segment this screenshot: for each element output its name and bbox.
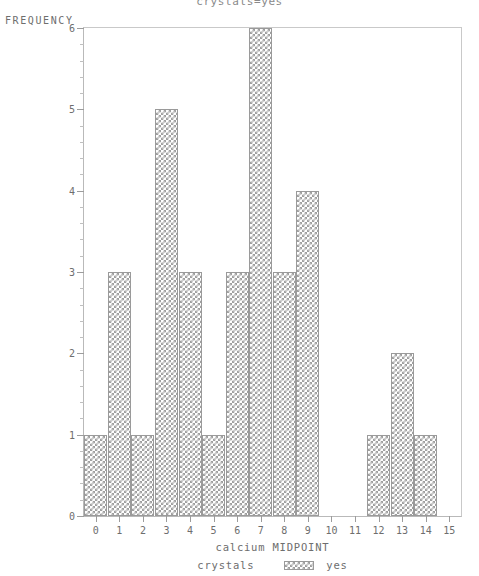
bar: [273, 272, 296, 516]
x-tick-label: 14: [420, 525, 432, 536]
y-tick: [77, 435, 84, 436]
y-tick: [77, 109, 84, 110]
x-tick: [237, 516, 238, 522]
x-tick-label: 10: [325, 525, 337, 536]
bar: [226, 272, 249, 516]
x-tick-label: 1: [116, 525, 122, 536]
x-tick-label: 11: [349, 525, 361, 536]
y-minor-tick: [80, 418, 84, 419]
y-minor-tick: [80, 158, 84, 159]
x-tick-label: 4: [187, 525, 193, 536]
plot-area: 0123456 0123456789101112131415: [83, 27, 462, 517]
x-tick-label: 15: [443, 525, 455, 536]
x-tick: [166, 516, 167, 522]
bar: [108, 272, 131, 516]
y-minor-tick: [80, 61, 84, 62]
y-minor-tick: [80, 256, 84, 257]
y-tick-label: 4: [69, 185, 75, 196]
x-tick: [143, 516, 144, 522]
x-tick: [308, 516, 309, 522]
y-minor-tick: [80, 402, 84, 403]
x-tick: [426, 516, 427, 522]
y-minor-tick: [80, 207, 84, 208]
bar: [391, 353, 414, 516]
y-minor-tick: [80, 223, 84, 224]
x-tick-label: 8: [281, 525, 287, 536]
bar: [84, 435, 107, 516]
x-tick: [331, 516, 332, 522]
bars-layer: [84, 28, 461, 516]
x-tick-label: 5: [211, 525, 217, 536]
bar: [296, 191, 319, 516]
x-tick-label: 9: [305, 525, 311, 536]
x-tick-label: 2: [140, 525, 146, 536]
y-tick-label: 0: [69, 511, 75, 522]
y-minor-tick: [80, 467, 84, 468]
bar: [131, 435, 154, 516]
bar: [179, 272, 202, 516]
y-tick-label: 1: [69, 429, 75, 440]
y-minor-tick: [80, 44, 84, 45]
y-minor-tick: [80, 239, 84, 240]
y-tick-label: 5: [69, 104, 75, 115]
chart-title: crystals=yes: [0, 0, 479, 8]
x-tick: [284, 516, 285, 522]
x-tick-label: 6: [234, 525, 240, 536]
x-tick-label: 12: [373, 525, 385, 536]
x-tick: [379, 516, 380, 522]
y-minor-tick: [80, 386, 84, 387]
x-tick: [214, 516, 215, 522]
y-minor-tick: [80, 305, 84, 306]
legend-swatch-yes: [284, 561, 314, 570]
x-tick-label: 7: [258, 525, 264, 536]
bar: [367, 435, 390, 516]
bar: [202, 435, 225, 516]
y-minor-tick: [80, 142, 84, 143]
y-minor-tick: [80, 370, 84, 371]
y-minor-tick: [80, 500, 84, 501]
y-minor-tick: [80, 337, 84, 338]
x-tick: [402, 516, 403, 522]
bar: [155, 109, 178, 516]
x-tick: [96, 516, 97, 522]
y-tick: [77, 272, 84, 273]
x-tick: [261, 516, 262, 522]
x-tick: [449, 516, 450, 522]
x-tick: [190, 516, 191, 522]
legend: crystals yes: [83, 559, 462, 571]
y-tick-label: 2: [69, 348, 75, 359]
x-tick: [355, 516, 356, 522]
y-minor-tick: [80, 174, 84, 175]
y-minor-tick: [80, 93, 84, 94]
legend-label-yes: yes: [326, 559, 347, 571]
y-minor-tick: [80, 451, 84, 452]
x-tick: [119, 516, 120, 522]
y-tick-label: 6: [69, 23, 75, 34]
x-axis-title: calcium MIDPOINT: [83, 541, 462, 553]
bar: [414, 435, 437, 516]
y-tick-label: 3: [69, 267, 75, 278]
x-tick-label: 3: [163, 525, 169, 536]
y-minor-tick: [80, 483, 84, 484]
legend-title: crystals: [197, 559, 254, 571]
histogram-chart: crystals=yes FREQUENCY 0123456 012345678…: [0, 0, 479, 576]
y-axis-title: FREQUENCY: [5, 15, 74, 26]
y-tick: [77, 28, 84, 29]
x-tick-label: 13: [396, 525, 408, 536]
y-minor-tick: [80, 77, 84, 78]
y-tick: [77, 191, 84, 192]
y-tick: [77, 516, 84, 517]
y-minor-tick: [80, 288, 84, 289]
bar: [249, 28, 272, 516]
y-tick: [77, 353, 84, 354]
x-tick-label: 0: [93, 525, 99, 536]
y-minor-tick: [80, 126, 84, 127]
y-minor-tick: [80, 321, 84, 322]
